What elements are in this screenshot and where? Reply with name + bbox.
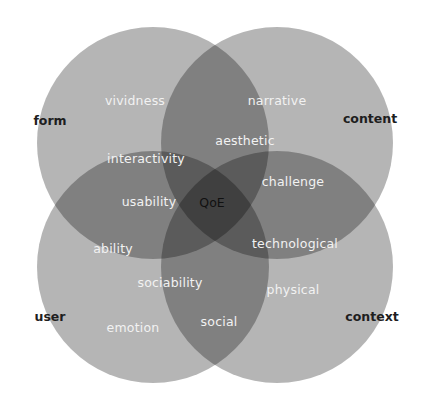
set-label-form: form: [33, 113, 66, 128]
center-label-qoe: QoE: [199, 195, 224, 210]
region-vividness: vividness: [105, 93, 165, 108]
region-sociability: sociability: [137, 275, 202, 290]
region-emotion: emotion: [107, 320, 160, 335]
venn-diagram: form content user context vividness narr…: [0, 0, 422, 406]
region-narrative: narrative: [248, 93, 307, 108]
region-usability: usability: [122, 194, 177, 209]
set-label-user: user: [35, 309, 66, 324]
region-social: social: [201, 314, 238, 329]
region-ability: ability: [93, 241, 133, 256]
set-label-content: content: [343, 111, 397, 126]
region-aesthetic: aesthetic: [215, 133, 274, 148]
region-technological: technological: [252, 236, 338, 251]
region-physical: physical: [267, 282, 320, 297]
region-challenge: challenge: [262, 174, 324, 189]
region-interactivity: interactivity: [107, 151, 185, 166]
set-label-context: context: [345, 309, 398, 324]
